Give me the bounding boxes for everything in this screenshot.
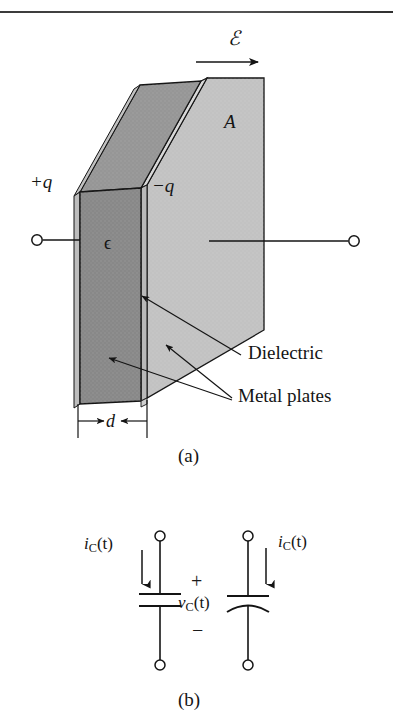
left-current-arg: (t) — [97, 534, 113, 553]
left-terminal-node — [32, 235, 42, 245]
efield-label: ℰ — [228, 28, 240, 48]
right-current-arg: (t) — [291, 532, 307, 551]
permittivity-label: ϵ — [104, 234, 111, 252]
polarity-plus-label: + — [191, 570, 202, 593]
left-terminal-lead — [32, 235, 80, 245]
negative-charge-label: −q — [152, 176, 174, 195]
right-branch-bottom-node — [243, 660, 253, 670]
metal-plates-callout-label: Metal plates — [238, 386, 331, 405]
left-branch — [139, 531, 181, 670]
polarity-minus-label: − — [192, 619, 203, 642]
right-current-subscript: C — [283, 539, 291, 553]
left-branch-top-node — [155, 531, 165, 541]
voltage-subscript: C — [186, 600, 194, 614]
dielectric-callout-label: Dielectric — [248, 343, 323, 362]
right-terminal-node — [349, 236, 359, 246]
left-current-subscript: C — [89, 541, 97, 555]
voltage-arg: (t) — [194, 593, 210, 612]
right-branch-top-node — [243, 531, 253, 541]
positive-charge-label: +q — [30, 172, 52, 191]
right-branch — [227, 531, 269, 670]
plate-area-label: A — [224, 112, 236, 131]
figure-root: ℰ A +q −q ϵ d Dielectric Metal plates (a… — [0, 0, 393, 720]
left-branch-bottom-node — [155, 660, 165, 670]
capacitor-3d-illustration — [0, 0, 393, 500]
capacitor-symbol-flat — [139, 594, 181, 606]
right-current-label: iC(t) — [278, 533, 307, 553]
panel-b-caption: (b) — [178, 690, 200, 709]
front-metal-plate-face — [80, 188, 141, 404]
capacitor-voltage-label: vC(t) — [178, 594, 210, 614]
left-current-label: iC(t) — [84, 535, 113, 555]
voltage-symbol: v — [178, 593, 186, 612]
plate-separation-label: d — [106, 412, 115, 430]
panel-a-caption: (a) — [178, 446, 199, 465]
